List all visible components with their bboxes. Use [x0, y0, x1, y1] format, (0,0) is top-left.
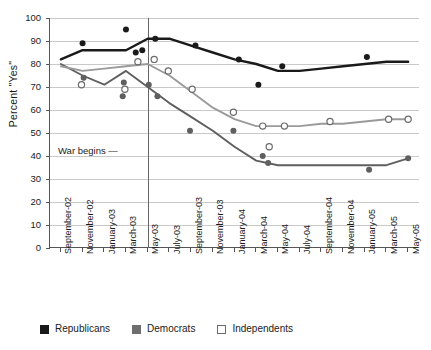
- x-tick-label: September-03: [194, 197, 204, 254]
- series-line: [61, 64, 408, 126]
- x-tick-mark: [255, 248, 256, 252]
- x-tick-label: November-02: [85, 199, 95, 254]
- x-tick-label: July-03: [172, 225, 182, 254]
- x-tick-label: July-04: [302, 225, 312, 254]
- y-tick-label: 100: [25, 13, 41, 23]
- x-tick-mark: [103, 248, 104, 252]
- x-tick-mark: [342, 248, 343, 252]
- data-point: [187, 128, 193, 134]
- x-tick-label: March-05: [389, 216, 399, 254]
- legend-label: Democrats: [147, 324, 195, 334]
- data-point: [255, 82, 261, 88]
- x-axis-tick-labels: September-02November-02January-03March-0…: [49, 248, 418, 318]
- data-point: [78, 82, 84, 88]
- x-tick-label: May-03: [150, 224, 160, 254]
- y-tick-label: 50: [30, 128, 41, 138]
- data-point: [266, 144, 272, 150]
- x-tick-label: November-03: [215, 199, 225, 254]
- data-point: [154, 93, 160, 99]
- x-tick-mark: [168, 248, 169, 252]
- legend-item-democrats[interactable]: Democrats: [132, 324, 195, 334]
- data-point: [405, 155, 411, 161]
- y-tick-label: 70: [30, 82, 41, 92]
- x-tick-mark: [364, 248, 365, 252]
- data-point: [281, 123, 287, 129]
- y-tick-label: 0: [36, 243, 41, 253]
- series-independents: [61, 56, 411, 150]
- x-tick-mark: [147, 248, 148, 252]
- series-democrats: [61, 64, 411, 173]
- data-point: [139, 47, 145, 53]
- data-point: [133, 50, 139, 56]
- x-tick-mark: [125, 248, 126, 252]
- legend-swatch-icon: [132, 325, 141, 334]
- x-tick-label: January-03: [107, 209, 117, 254]
- data-point: [135, 59, 141, 65]
- data-point: [265, 160, 271, 166]
- x-tick-mark: [320, 248, 321, 252]
- data-point: [386, 116, 392, 122]
- data-point: [189, 86, 195, 92]
- data-point: [80, 40, 86, 46]
- x-tick-label: November-04: [346, 199, 356, 254]
- x-tick-mark: [190, 248, 191, 252]
- x-tick-mark: [212, 248, 213, 252]
- x-tick-label: January-04: [237, 209, 247, 254]
- y-tick-label: 40: [30, 151, 41, 161]
- series-line: [61, 39, 408, 71]
- x-tick-mark: [82, 248, 83, 252]
- data-point: [123, 27, 129, 33]
- war-begins-annotation: War begins —: [58, 145, 118, 156]
- x-tick-label: September-02: [63, 197, 73, 254]
- data-point: [279, 63, 285, 69]
- x-tick-mark: [234, 248, 235, 252]
- data-point: [81, 75, 87, 81]
- data-point: [146, 82, 152, 88]
- y-tick-label: 80: [30, 59, 41, 69]
- legend-swatch-icon: [217, 325, 226, 334]
- legend-swatch-icon: [40, 325, 49, 334]
- x-tick-mark: [60, 248, 61, 252]
- data-point: [230, 128, 236, 134]
- x-tick-label: March-03: [128, 216, 138, 254]
- data-point: [121, 79, 127, 85]
- data-point: [260, 153, 266, 159]
- data-point: [405, 116, 411, 122]
- x-tick-mark: [277, 248, 278, 252]
- legend-label: Republicans: [55, 324, 110, 334]
- y-tick-label: 90: [30, 36, 41, 46]
- y-axis-tick-labels: 0102030405060708090100: [0, 18, 46, 248]
- x-tick-mark: [299, 248, 300, 252]
- data-point: [151, 56, 157, 62]
- data-point: [230, 109, 236, 115]
- plot-area: War begins —: [49, 18, 418, 248]
- data-point: [260, 123, 266, 129]
- legend-item-independents[interactable]: Independents: [217, 324, 293, 334]
- data-point: [236, 56, 242, 62]
- y-tick-label: 60: [30, 105, 41, 115]
- y-tick-label: 30: [30, 174, 41, 184]
- series-layer: [50, 18, 419, 248]
- data-point: [366, 167, 372, 173]
- x-tick-label: March-04: [259, 216, 269, 254]
- legend-label: Independents: [232, 324, 293, 334]
- data-point: [122, 86, 128, 92]
- x-tick-label: January-05: [367, 209, 377, 254]
- x-tick-mark: [407, 248, 408, 252]
- data-point: [327, 118, 333, 124]
- data-point: [165, 68, 171, 74]
- legend-item-republicans[interactable]: Republicans: [40, 324, 110, 334]
- x-tick-label: May-04: [280, 224, 290, 254]
- data-point: [152, 36, 158, 42]
- y-tick-label: 10: [30, 220, 41, 230]
- data-point: [192, 43, 198, 49]
- chart-legend: RepublicansDemocratsIndependents: [40, 324, 315, 334]
- chart-root: Percent "Yes" 0102030405060708090100 War…: [0, 0, 431, 350]
- x-tick-label: May-05: [411, 224, 421, 254]
- data-point: [120, 93, 126, 99]
- x-tick-label: September-04: [324, 197, 334, 254]
- data-point: [364, 54, 370, 60]
- x-tick-mark: [385, 248, 386, 252]
- y-tick-label: 20: [30, 197, 41, 207]
